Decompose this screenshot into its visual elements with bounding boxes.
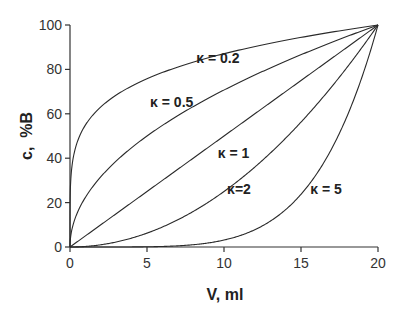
curve-label: κ=2 (227, 181, 251, 197)
x-axis: 05101520 (66, 247, 386, 271)
y-tick-label: 100 (39, 17, 63, 33)
y-tick-label: 0 (54, 239, 62, 255)
x-tick-label: 5 (143, 255, 151, 271)
y-tick-label: 40 (46, 150, 62, 166)
chart: 020406080100 05101520 κ = 0.2κ = 0.5κ = … (0, 0, 403, 321)
curve-label: κ = 0.2 (196, 50, 239, 66)
y-tick-label: 20 (46, 195, 62, 211)
x-axis-title: V, ml (207, 286, 244, 303)
curve-label: κ = 1 (218, 145, 250, 161)
x-tick-label: 10 (216, 255, 232, 271)
curve-label: κ = 0.5 (150, 94, 193, 110)
curve-label: κ = 5 (310, 181, 342, 197)
y-axis-title: c, %B (18, 112, 35, 160)
x-tick-label: 15 (293, 255, 309, 271)
y-tick-label: 80 (46, 61, 62, 77)
x-tick-label: 0 (66, 255, 74, 271)
y-axis: 020406080100 (39, 17, 70, 255)
x-tick-label: 20 (370, 255, 386, 271)
y-tick-label: 60 (46, 106, 62, 122)
